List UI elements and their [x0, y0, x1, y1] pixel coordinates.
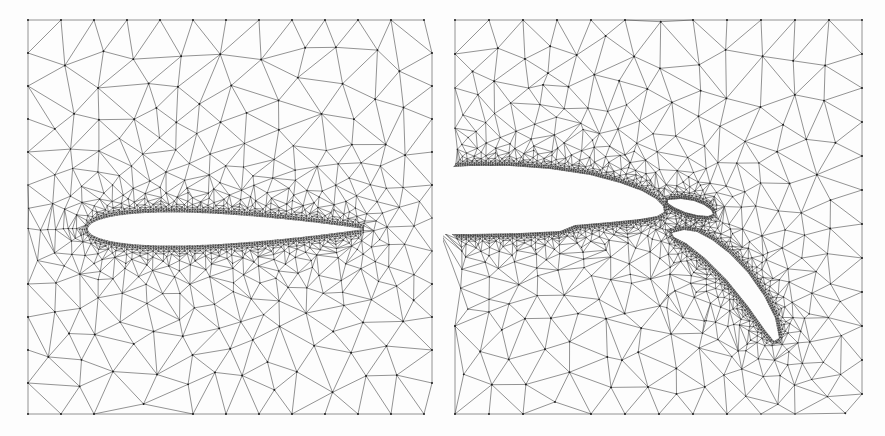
mesh-panel-single-element-airfoil [0, 0, 443, 436]
mesh-svg-right [443, 0, 885, 436]
mesh-panel-multi-element-airfoil [443, 0, 885, 436]
figure-root [0, 0, 885, 436]
mesh-svg-left [0, 0, 443, 436]
airfoil-bodies-right [443, 166, 779, 341]
